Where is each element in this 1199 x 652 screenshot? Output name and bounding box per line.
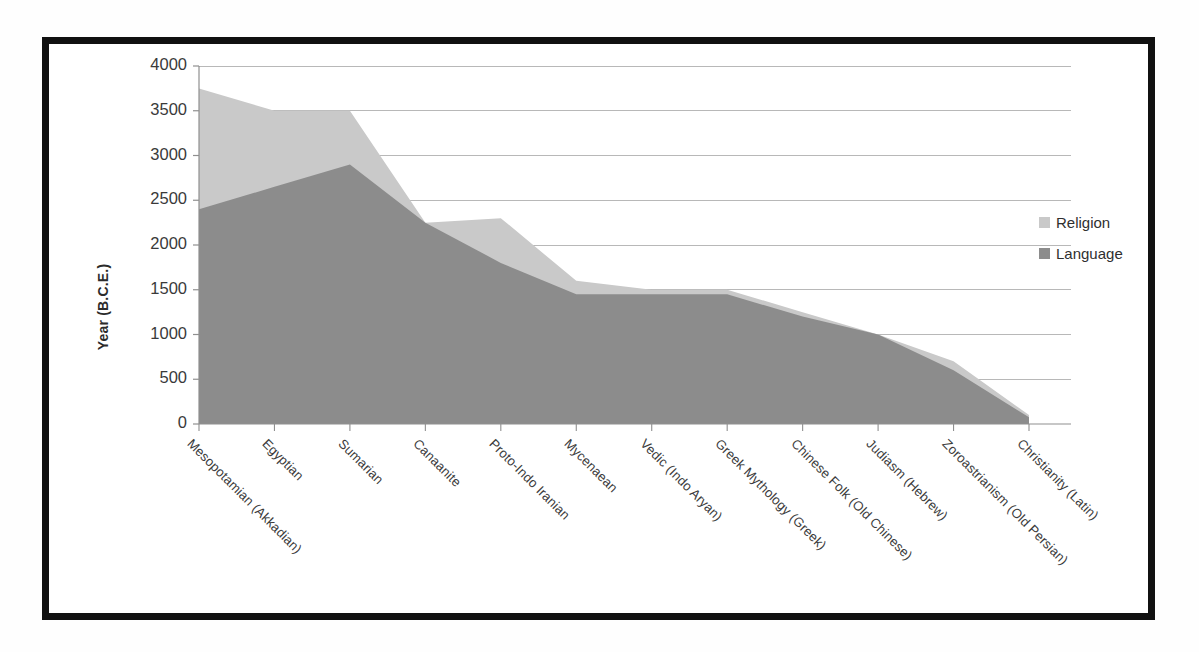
y-tick-label: 0 (127, 413, 187, 432)
legend-swatch-icon (1039, 248, 1050, 259)
legend-item[interactable]: Religion (1039, 214, 1123, 231)
legend-label: Language (1056, 245, 1123, 262)
series-areas (199, 88, 1029, 424)
chart-legend: ReligionLanguage (1039, 214, 1123, 276)
legend-swatch-icon (1039, 217, 1050, 228)
area-chart-plot (49, 44, 1148, 613)
y-tick-label: 3500 (127, 100, 187, 119)
y-tick-label: 1500 (127, 279, 187, 298)
y-tick-label: 3000 (127, 145, 187, 164)
y-tick-label: 500 (127, 368, 187, 387)
y-tick-label: 1000 (127, 324, 187, 343)
page-canvas: Year (B.C.E.) 05001000150020002500300035… (0, 0, 1199, 652)
legend-item[interactable]: Language (1039, 245, 1123, 262)
legend-label: Religion (1056, 214, 1110, 231)
x-axis-ticks (199, 424, 1029, 431)
y-tick-label: 4000 (127, 55, 187, 74)
chart-area: Year (B.C.E.) 05001000150020002500300035… (49, 44, 1148, 613)
y-tick-label: 2000 (127, 234, 187, 253)
chart-frame: Year (B.C.E.) 05001000150020002500300035… (42, 37, 1155, 620)
y-tick-label: 2500 (127, 189, 187, 208)
